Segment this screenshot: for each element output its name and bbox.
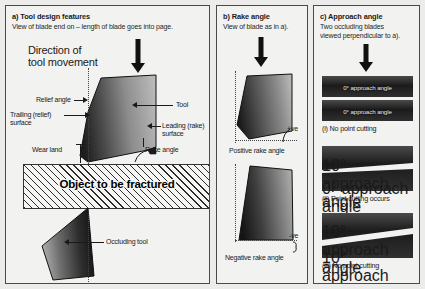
panel-approach-angle: c) Approach angle Two occluding blades v…: [313, 5, 420, 284]
tool-label: Tool: [176, 101, 188, 109]
occluding-tool-leader2: [68, 242, 80, 243]
leading-surface-arrowhead-icon: [147, 123, 152, 129]
figure-root: a) Tool design features View of blade en…: [0, 0, 425, 289]
panel-c-subtitle-line1: Two occluding blades: [320, 23, 384, 30]
occluding-reference-dotline: [88, 210, 89, 284]
approach-group-1: 10° approach angle 0° approach angle (ii…: [322, 146, 413, 203]
occluding-tool-shape: [36, 206, 102, 284]
panel-c-arrow-icon: [358, 44, 374, 72]
direction-label-line1: Direction of: [28, 44, 128, 57]
trailing-surface-arrowhead-icon: [85, 112, 90, 118]
positive-rake-caption: Positive rake angle: [229, 147, 284, 155]
blade-pair-2: 10° approach angle 10° approach angle: [322, 213, 413, 258]
occluding-tool-leader: [79, 242, 104, 243]
blade-bottom-1-label: 0° approach angle: [322, 180, 413, 216]
approach-group-0: 0° approach angle 0° approach angle (i) …: [322, 76, 413, 133]
tool-arrowhead-icon: [132, 102, 137, 108]
panel-tool-design-features: a) Tool design features View of blade en…: [5, 5, 210, 284]
tool-leader: [137, 105, 173, 106]
relief-angle-label: Relief angle: [36, 96, 71, 104]
negative-rake-blade-shape: [237, 164, 297, 246]
trailing-surface-label-line2: surface: [10, 119, 72, 127]
negative-rake-caption: Negative rake angle: [225, 254, 283, 262]
positive-rake-marker: +ve: [287, 125, 298, 133]
trailing-surface-leader: [64, 115, 86, 116]
positive-rake-dotline: [235, 71, 236, 143]
panel-a-title: a) Tool design features: [12, 12, 90, 21]
blade-pair-1: 10° approach angle 0° approach angle: [322, 146, 413, 191]
leading-surface-leader: [152, 126, 161, 127]
panel-b-arrow-icon: [253, 37, 269, 67]
blade-bottom-0-label: 0° approach angle: [322, 107, 413, 114]
direction-label-line2: tool movement: [28, 56, 138, 69]
approach-group-2: 10° approach angle 10° approach angle (i…: [322, 213, 413, 270]
occluding-tool-label: Occluding tool: [106, 238, 148, 246]
negative-rake-brace-icon: [291, 239, 301, 251]
blade-bottom-2-label: 10° approach angle: [322, 249, 413, 284]
panel-rake-angle: b) Rake angle View of blade as in a).: [216, 5, 308, 284]
blade-top-0: 0° approach angle: [322, 76, 413, 97]
panel-c-subtitle-line2: viewed perpendicular to a).: [320, 32, 400, 39]
negative-rake-baseline: [235, 240, 297, 241]
leading-surface-label-line2: surface: [162, 130, 210, 138]
rake-angle-arc: [134, 149, 156, 163]
blade-top-0-label: 0° approach angle: [322, 83, 413, 90]
approach-caption-0: (i) No point cutting: [322, 121, 413, 133]
negative-rake-dotline: [235, 164, 236, 242]
object-label: Object to be fractured: [24, 178, 210, 190]
relief-angle-arrowhead-icon: [83, 97, 88, 103]
tool-movement-arrow-icon: [130, 39, 146, 73]
wear-land-label: Wear land: [32, 146, 62, 154]
panel-a-subtitle: View of blade end on – length of blade g…: [12, 23, 173, 30]
rake-angle-leader: [143, 138, 144, 147]
wear-land-tick-stem: [80, 144, 81, 163]
object-to-be-fractured-block: Object to be fractured: [23, 164, 210, 209]
panel-b-title: b) Rake angle: [223, 12, 270, 21]
panel-b-subtitle: View of blade as in a).: [223, 23, 288, 30]
panel-c-title: c) Approach angle: [320, 12, 383, 21]
blade-bottom-0: 0° approach angle: [322, 100, 413, 121]
